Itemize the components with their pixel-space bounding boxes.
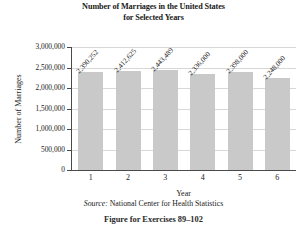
y-tick-mark: [67, 150, 71, 151]
chart-title: Number of Marriages in the United States…: [0, 2, 307, 23]
x-tick-label: 6: [265, 174, 290, 182]
bar: [228, 72, 253, 170]
x-tick-label: 1: [78, 174, 103, 182]
source-text: National Center for Health Statistics: [108, 199, 223, 208]
chart-title-line-1: Number of Marriages in the United States: [0, 2, 307, 13]
x-tick-label: 3: [153, 174, 178, 182]
figure-caption: Figure for Exercises 89–102: [0, 215, 307, 225]
x-axis-line: [71, 170, 296, 171]
source-note: Source: National Center for Health Stati…: [0, 199, 307, 208]
bar: [116, 71, 141, 170]
x-axis-title: Year: [71, 189, 296, 198]
y-tick-label: 1,500,000: [35, 105, 65, 112]
y-axis-title: Number of Marriages: [13, 47, 25, 171]
y-tick-mark: [67, 109, 71, 110]
y-tick-label: 1,000,000: [35, 125, 65, 132]
chart-title-line-2: for Selected Years: [0, 13, 307, 24]
bar-series: 2,390,2522,412,6252,443,4892,336,0002,39…: [72, 47, 296, 170]
bar: [78, 72, 103, 170]
figure-container: Number of Marriages in the United States…: [0, 0, 307, 225]
y-tick-mark: [67, 68, 71, 69]
x-tick-label: 4: [190, 174, 215, 182]
y-tick-label: 2,000,000: [35, 84, 65, 91]
x-tick-label: 2: [116, 174, 141, 182]
y-tick-label: 0: [61, 166, 65, 173]
y-tick-label: 3,000,000: [35, 43, 65, 50]
y-tick-label: 2,500,000: [35, 64, 65, 71]
bar: [153, 70, 178, 170]
bar: [190, 74, 215, 170]
y-tick-label: 500,000: [41, 146, 65, 153]
y-tick-mark: [67, 47, 71, 48]
x-tick-label: 5: [228, 174, 253, 182]
y-tick-mark: [67, 129, 71, 130]
y-tick-mark: [67, 88, 71, 89]
source-label: Source:: [84, 199, 108, 208]
y-tick-mark: [67, 170, 71, 171]
bar: [265, 78, 290, 170]
plot-area: 0500,0001,000,0001,500,0002,000,0002,500…: [71, 47, 296, 171]
